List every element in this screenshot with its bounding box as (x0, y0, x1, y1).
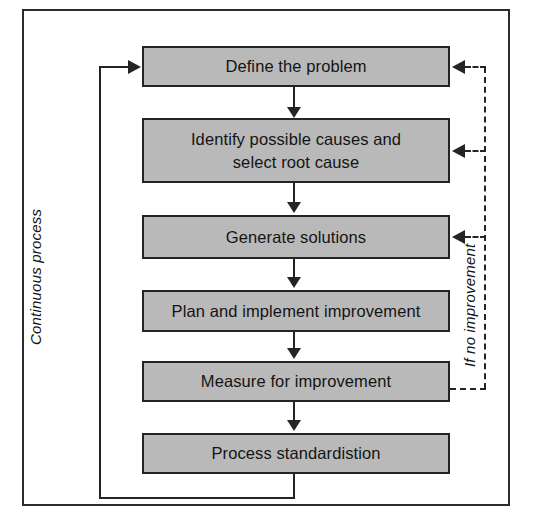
flowchart-canvas: Define the problem Identify possible cau… (0, 0, 534, 527)
arrowhead-left-icon (452, 144, 465, 158)
process-node-identify-causes[interactable]: Identify possible causes and select root… (142, 118, 450, 183)
dashed-branch-to-identify (465, 150, 486, 152)
label-if-no-improvement: If no improvement (461, 244, 478, 367)
arrowhead-down-icon (287, 348, 301, 359)
process-node-define-the-problem[interactable]: Define the problem (142, 46, 450, 87)
process-node-generate-solutions[interactable]: Generate solutions (142, 215, 450, 259)
arrowhead-left-icon (452, 60, 465, 74)
diagram-frame: Define the problem Identify possible cau… (22, 9, 510, 506)
connector-measure-to-standardistion (293, 402, 295, 422)
arrowhead-down-icon (287, 107, 301, 118)
dashed-branch-to-generate (465, 236, 486, 238)
connector-define-to-identify (293, 87, 295, 109)
loop-segment-top (99, 66, 131, 68)
process-node-plan-and-implement[interactable]: Plan and implement improvement (142, 290, 450, 332)
arrowhead-down-icon (287, 202, 301, 213)
process-node-measure-for-improvement[interactable]: Measure for improvement (142, 361, 450, 402)
loop-segment-bottom (99, 497, 295, 499)
connector-identify-to-generate (293, 183, 295, 204)
loop-segment-up (99, 67, 101, 499)
dashed-exit-from-measure (450, 388, 486, 390)
dashed-branch-to-define (465, 66, 486, 68)
dashed-riser (484, 67, 486, 389)
label-continuous-process: Continuous process (27, 209, 44, 345)
process-node-process-standardistion[interactable]: Process standardistion (142, 433, 450, 474)
arrowhead-down-icon (287, 420, 301, 431)
arrowhead-right-icon (128, 60, 141, 74)
arrowhead-down-icon (287, 277, 301, 288)
loop-segment-down (293, 474, 295, 499)
connector-generate-to-plan (293, 259, 295, 279)
arrowhead-left-icon (452, 230, 465, 244)
